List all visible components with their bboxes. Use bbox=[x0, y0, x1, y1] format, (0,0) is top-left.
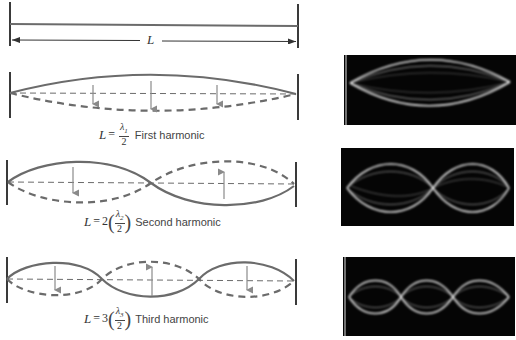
string-diagrams bbox=[0, 0, 310, 340]
first-harmonic-label: L = λ1 2 First harmonic bbox=[99, 122, 205, 147]
string-line bbox=[10, 24, 298, 26]
subscript: 3 bbox=[120, 311, 124, 319]
first-harmonic-photo bbox=[344, 55, 516, 125]
equals-sign: = bbox=[108, 127, 115, 142]
lhs: L bbox=[84, 311, 91, 327]
open-paren: ( bbox=[108, 309, 115, 329]
solid-wave bbox=[10, 75, 296, 94]
dimension-arrow-left bbox=[12, 40, 140, 41]
equals-sign: = bbox=[93, 311, 100, 326]
open-paren: ( bbox=[108, 212, 115, 232]
denominator: 2 bbox=[121, 137, 126, 147]
third-harmonic-label: L = 3 ( λ3 2 ) Third harmonic bbox=[84, 306, 209, 331]
dimension-arrow-right bbox=[162, 41, 296, 42]
fraction: λ1 2 bbox=[119, 122, 129, 147]
equilibrium-line bbox=[7, 279, 294, 281]
denominator: 2 bbox=[117, 321, 122, 331]
second-harmonic-photo bbox=[341, 148, 514, 226]
lhs: L bbox=[99, 127, 106, 143]
equilibrium-line bbox=[10, 93, 296, 94]
length-label: L bbox=[144, 32, 157, 48]
third-harmonic-photo bbox=[343, 257, 515, 336]
close-paren: ) bbox=[125, 309, 132, 329]
equals-sign: = bbox=[93, 214, 100, 229]
harmonic-name: Second harmonic bbox=[135, 216, 221, 228]
subscript: 1 bbox=[124, 127, 128, 135]
fraction: λ2 2 bbox=[115, 209, 125, 234]
lhs: L bbox=[84, 214, 91, 230]
denominator: 2 bbox=[117, 224, 122, 234]
second-harmonic-label: L = 2 ( λ2 2 ) Second harmonic bbox=[84, 209, 221, 234]
second-harmonic-diagram bbox=[7, 160, 296, 207]
subscript: 2 bbox=[120, 214, 124, 222]
third-harmonic-diagram bbox=[7, 257, 296, 305]
first-harmonic-diagram bbox=[10, 72, 298, 120]
harmonic-name: Third harmonic bbox=[135, 313, 208, 325]
fraction: λ3 2 bbox=[115, 306, 125, 331]
close-paren: ) bbox=[125, 212, 132, 232]
dashed-wave bbox=[10, 93, 296, 111]
harmonic-name: First harmonic bbox=[135, 129, 205, 141]
